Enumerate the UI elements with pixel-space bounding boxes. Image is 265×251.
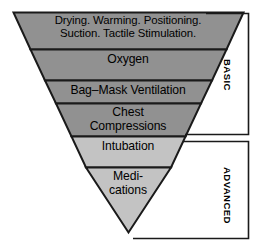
- pyramid-graphic: [0, 0, 265, 251]
- band-shape-drying-warming: [14, 13, 244, 50]
- band-shape-bag-mask-ventilation: [45, 81, 212, 104]
- band-shape-medications: [86, 168, 171, 233]
- band-shape-chest-compressions: [56, 104, 201, 137]
- band-shape-oxygen: [31, 50, 227, 81]
- inverted-pyramid-diagram: Drying. Warming. Positioning. Suction. T…: [0, 0, 265, 251]
- band-shape-intubation: [72, 137, 186, 168]
